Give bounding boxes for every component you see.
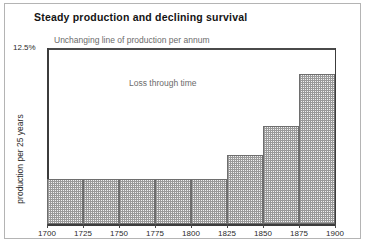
annotation-production-line: Unchanging line of production per annum (54, 35, 209, 45)
y-axis-label: production per 25 years (15, 84, 25, 234)
bar-1700 (47, 179, 83, 224)
figure-frame: Steady production and declining survival… (4, 3, 361, 239)
x-tick-1825 (227, 224, 228, 228)
x-tick-label-1775: 1775 (146, 229, 164, 238)
x-tick-1900 (335, 224, 336, 228)
bar-1875 (299, 74, 335, 224)
x-tick-1725 (83, 224, 84, 228)
bar-1775 (155, 179, 191, 224)
x-tick-label-1900: 1900 (326, 229, 344, 238)
y-axis-top-label: 12.5% (13, 43, 36, 52)
x-tick-1700 (47, 224, 48, 228)
x-tick-label-1850: 1850 (254, 229, 272, 238)
bar-1800 (191, 179, 227, 224)
plot-area (47, 49, 335, 224)
x-tick-1875 (299, 224, 300, 228)
x-tick-1775 (155, 224, 156, 228)
x-tick-1750 (119, 224, 120, 228)
bar-1825 (227, 155, 263, 224)
x-tick-label-1800: 1800 (182, 229, 200, 238)
x-tick-label-1825: 1825 (218, 229, 236, 238)
x-tick-label-1700: 1700 (38, 229, 56, 238)
chart-title: Steady production and declining survival (34, 11, 247, 23)
x-tick-1800 (191, 224, 192, 228)
x-tick-1850 (263, 224, 264, 228)
x-tick-label-1875: 1875 (290, 229, 308, 238)
bar-1850 (263, 126, 299, 224)
bar-1750 (119, 179, 155, 224)
bar-1725 (83, 179, 119, 224)
x-tick-label-1750: 1750 (110, 229, 128, 238)
x-tick-label-1725: 1725 (74, 229, 92, 238)
